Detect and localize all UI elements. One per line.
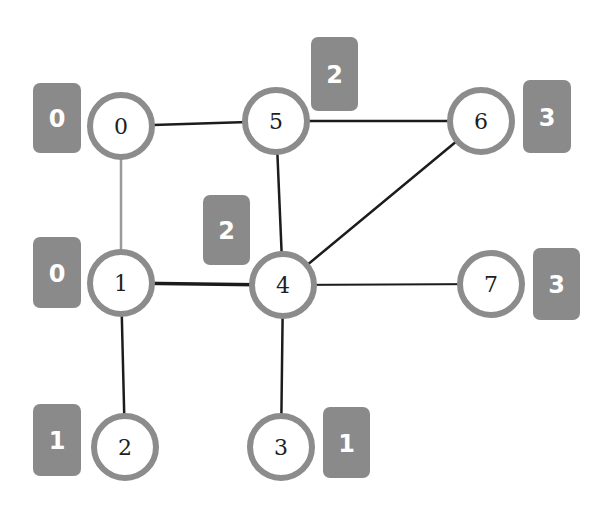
graph-node-6[interactable]: 6 bbox=[450, 90, 512, 152]
badge-node-0: 0 bbox=[33, 83, 81, 153]
node-label: 6 bbox=[474, 109, 488, 134]
node-label: 3 bbox=[274, 435, 288, 460]
node-label: 1 bbox=[114, 271, 128, 296]
graph-node-2[interactable]: 2 bbox=[94, 416, 156, 478]
graph-node-3[interactable]: 3 bbox=[250, 416, 312, 478]
badge-node-7: 3 bbox=[533, 248, 580, 320]
badge-value: 2 bbox=[218, 217, 235, 245]
badge-value: 1 bbox=[338, 430, 355, 458]
graph-canvas: 00112233 01234567 bbox=[0, 0, 608, 513]
graph-node-0[interactable]: 0 bbox=[90, 95, 152, 157]
badge-node-6: 3 bbox=[523, 80, 571, 153]
graph-node-1[interactable]: 1 bbox=[90, 252, 152, 314]
graph-node-5[interactable]: 5 bbox=[245, 90, 307, 152]
badge-node-4: 2 bbox=[203, 195, 250, 265]
badge-value: 2 bbox=[326, 61, 343, 89]
badge-node-5: 2 bbox=[311, 37, 358, 111]
graph-node-4[interactable]: 4 bbox=[252, 254, 314, 316]
badge-value: 0 bbox=[49, 260, 66, 288]
badge-value: 1 bbox=[49, 427, 66, 455]
node-label: 4 bbox=[276, 273, 290, 298]
badge-node-1: 0 bbox=[33, 237, 81, 308]
badge-value: 0 bbox=[49, 105, 66, 133]
node-label: 0 bbox=[114, 114, 128, 139]
badge-node-3: 1 bbox=[323, 407, 370, 478]
node-label: 7 bbox=[484, 272, 498, 297]
node-label: 5 bbox=[269, 109, 283, 134]
badge-value: 3 bbox=[539, 104, 556, 132]
node-label: 2 bbox=[118, 435, 132, 460]
nodes-layer: 01234567 bbox=[90, 90, 522, 478]
badge-node-2: 1 bbox=[33, 404, 81, 476]
graph-node-7[interactable]: 7 bbox=[460, 253, 522, 315]
edge-6-4 bbox=[283, 121, 481, 285]
badge-value: 3 bbox=[548, 271, 565, 299]
